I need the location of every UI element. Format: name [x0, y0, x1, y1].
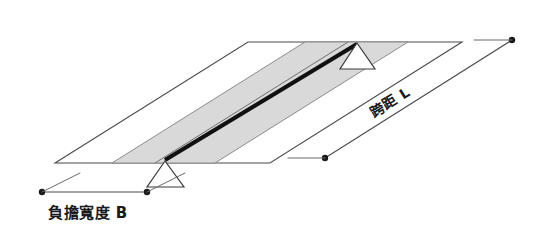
engineering-diagram: 負擔寬度 B 跨距 L — [0, 0, 535, 246]
load-width-label: 負擔寬度 B — [48, 204, 128, 222]
load-width-leader-left — [42, 173, 80, 192]
diagram-canvas: 負擔寬度 B 跨距 L — [0, 0, 535, 246]
